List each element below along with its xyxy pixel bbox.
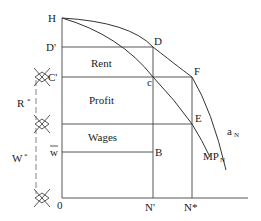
label-w-star: W: [12, 152, 23, 164]
label-n-prime: N': [145, 201, 155, 213]
label-n-star: N*: [184, 201, 197, 213]
region-rent: Rent: [91, 57, 112, 69]
label-h: H: [48, 12, 56, 24]
label-d-prime: D': [46, 41, 56, 53]
average-product-sub: N: [234, 131, 239, 139]
region-profit: Profit: [89, 94, 114, 106]
r-star-mark: *: [27, 97, 31, 105]
average-product-curve: [62, 18, 226, 170]
point-d: D: [154, 35, 162, 47]
bracket-marker-e-level: [34, 115, 50, 133]
distribution-diagram: H D' C' w 0 N' N* R * W * D c F E B Rent…: [0, 0, 261, 221]
point-c: c: [147, 76, 152, 88]
marginal-product-sub: N: [220, 156, 225, 164]
point-e: E: [195, 112, 202, 124]
marginal-product-curve: [62, 18, 210, 157]
label-origin: 0: [57, 199, 63, 211]
label-w-bar: w: [50, 146, 58, 158]
region-wages: Wages: [88, 131, 117, 143]
point-b: B: [155, 146, 162, 158]
label-average-product: a: [227, 125, 232, 137]
point-f: F: [194, 65, 200, 77]
label-marginal-product: MP: [203, 150, 219, 162]
bracket-marker-origin: [34, 189, 50, 207]
label-c-prime: C': [48, 71, 57, 83]
label-r-star: R: [17, 97, 25, 109]
w-star-mark: *: [24, 152, 28, 160]
